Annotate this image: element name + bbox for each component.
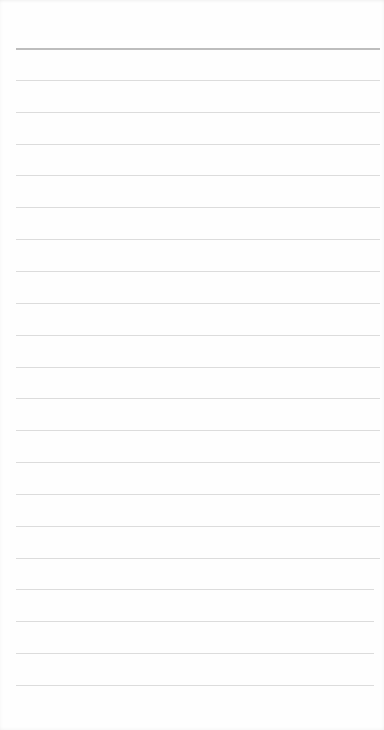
header-rule-line xyxy=(16,48,380,50)
notepad-page[interactable] xyxy=(0,0,384,730)
note-content[interactable] xyxy=(16,52,378,700)
